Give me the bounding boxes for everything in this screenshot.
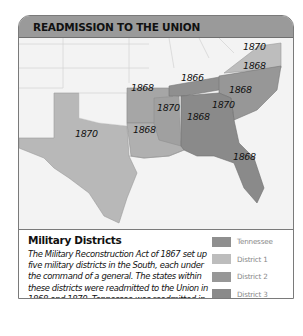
map-label-tennessee: 1866	[181, 72, 204, 83]
map-label-louisiana: 1868	[133, 124, 156, 135]
map-figure: READMISSION TO THE UNION	[18, 15, 294, 299]
info-panel: Military Districts The Military Reconstr…	[19, 230, 293, 298]
map-label-texas: 1870	[75, 128, 98, 139]
legend-label: District 2	[237, 272, 268, 281]
map-label-arkansas: 1868	[131, 82, 154, 93]
legend-item-district-2: District 2	[212, 268, 292, 286]
legend-swatch	[212, 272, 231, 282]
figure-title: READMISSION TO THE UNION	[33, 21, 200, 33]
legend-item-district-1: District 1	[212, 251, 292, 269]
legend-label: District 3	[237, 290, 268, 299]
map-label-south-carolina: 1868	[229, 84, 252, 95]
legend-swatch	[212, 254, 231, 264]
info-title: Military Districts	[28, 234, 121, 246]
map-label-georgia: 1870	[212, 99, 235, 110]
legend: Tennessee District 1 District 2 District…	[212, 233, 292, 299]
legend-swatch	[212, 237, 231, 247]
legend-item-tennessee: Tennessee	[212, 233, 292, 251]
map-label-north-carolina: 1868	[243, 60, 266, 71]
info-text: The Military Reconstruction Act of 1867 …	[28, 249, 213, 299]
map-label-mississippi: 1870	[157, 102, 180, 113]
map-label-virginia: 1870	[243, 41, 266, 52]
map-label-florida: 1868	[233, 151, 256, 162]
legend-item-district-3: District 3	[212, 286, 292, 300]
legend-label: District 1	[237, 255, 268, 264]
map-label-alabama: 1868	[187, 111, 210, 122]
map-area: 1870186818661868186818701870186818681870…	[19, 38, 293, 230]
legend-label: Tennessee	[237, 237, 273, 246]
figure-header: READMISSION TO THE UNION	[19, 16, 293, 38]
legend-swatch	[212, 289, 231, 299]
